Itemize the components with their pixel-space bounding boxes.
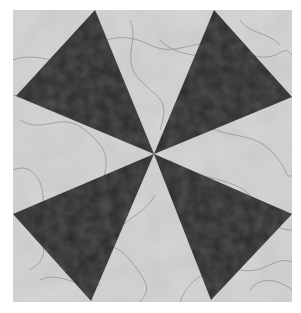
quilt-block-image	[0, 0, 301, 313]
